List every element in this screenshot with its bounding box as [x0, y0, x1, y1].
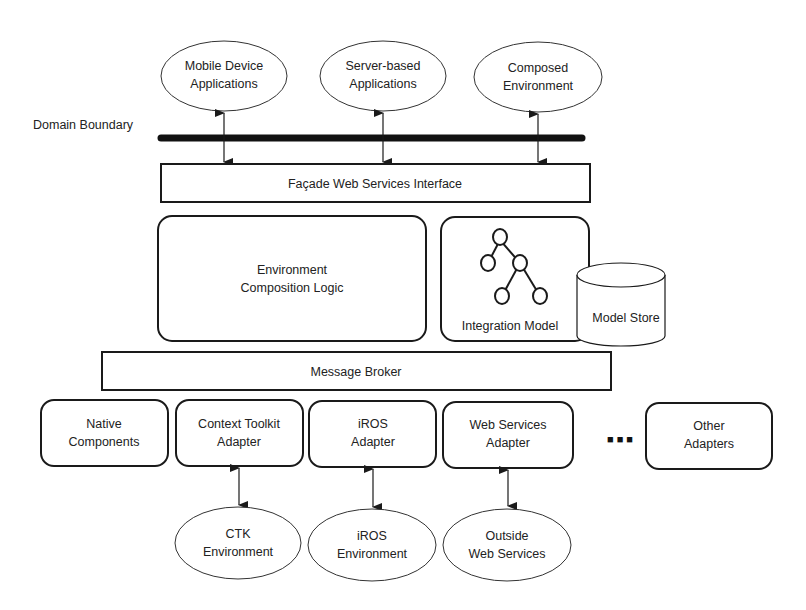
- client-label-line2: Environment: [503, 79, 574, 93]
- adapter-label-line2: Adapters: [684, 437, 734, 451]
- client-mobile-device-applications: Mobile Device Applications: [161, 41, 287, 111]
- more-adapters-ellipsis: ■ ■ ■: [607, 433, 633, 445]
- env-label-line2: Web Services: [469, 547, 546, 561]
- domain-boundary-label: Domain Boundary: [33, 118, 134, 132]
- env-label-line1: CTK: [226, 527, 252, 541]
- facade-label: Façade Web Services Interface: [288, 177, 462, 191]
- adapter-other: Other Adapters: [646, 403, 772, 469]
- integration-model-label: Integration Model: [462, 319, 559, 333]
- adapter-label-line2: Adapter: [486, 436, 530, 450]
- external-outside-web-services: Outside Web Services: [443, 509, 571, 581]
- client-label-line1: Mobile Device: [185, 59, 264, 73]
- message-broker: Message Broker: [102, 352, 611, 390]
- model-store: Model Store: [577, 263, 665, 346]
- client-label-line1: Composed: [508, 61, 568, 75]
- client-composed-environment: Composed Environment: [474, 42, 602, 112]
- facade-web-services-interface: Façade Web Services Interface: [161, 164, 590, 202]
- client-label-line1: Server-based: [345, 59, 420, 73]
- adapter-context-toolkit: Context Toolkit Adapter: [176, 400, 303, 466]
- adapter-label-line1: Context Toolkit: [198, 417, 280, 431]
- adapter-web-services: Web Services Adapter: [443, 402, 573, 468]
- adapter-label-line2: Adapter: [351, 435, 395, 449]
- env-label-line1: iROS: [357, 529, 387, 543]
- message-broker-label: Message Broker: [310, 365, 401, 379]
- composition-logic-line1: Environment: [257, 263, 328, 277]
- client-label-line2: Applications: [190, 77, 257, 91]
- env-label-line2: Environment: [203, 545, 274, 559]
- adapter-label-line1: Other: [693, 419, 724, 433]
- external-iros-environment: iROS Environment: [308, 509, 436, 581]
- adapter-native-components: Native Components: [41, 400, 168, 466]
- integration-model: Integration Model: [441, 217, 589, 341]
- adapter-label-line1: iROS: [358, 417, 388, 431]
- adapter-label-line1: Web Services: [470, 418, 547, 432]
- adapter-label-line2: Adapter: [217, 435, 261, 449]
- adapter-iros: iROS Adapter: [309, 401, 436, 467]
- external-ctk-environment: CTK Environment: [175, 507, 301, 579]
- env-label-line1: Outside: [485, 529, 528, 543]
- client-label-line2: Applications: [349, 77, 416, 91]
- architecture-diagram: Mobile Device Applications Server-based …: [0, 0, 806, 610]
- adapter-label-line2: Components: [69, 435, 140, 449]
- client-server-based-applications: Server-based Applications: [320, 41, 446, 111]
- composition-logic-line2: Composition Logic: [241, 281, 344, 295]
- env-label-line2: Environment: [337, 547, 408, 561]
- environment-composition-logic: Environment Composition Logic: [158, 216, 426, 341]
- model-store-label: Model Store: [592, 311, 659, 325]
- adapter-label-line1: Native: [86, 417, 121, 431]
